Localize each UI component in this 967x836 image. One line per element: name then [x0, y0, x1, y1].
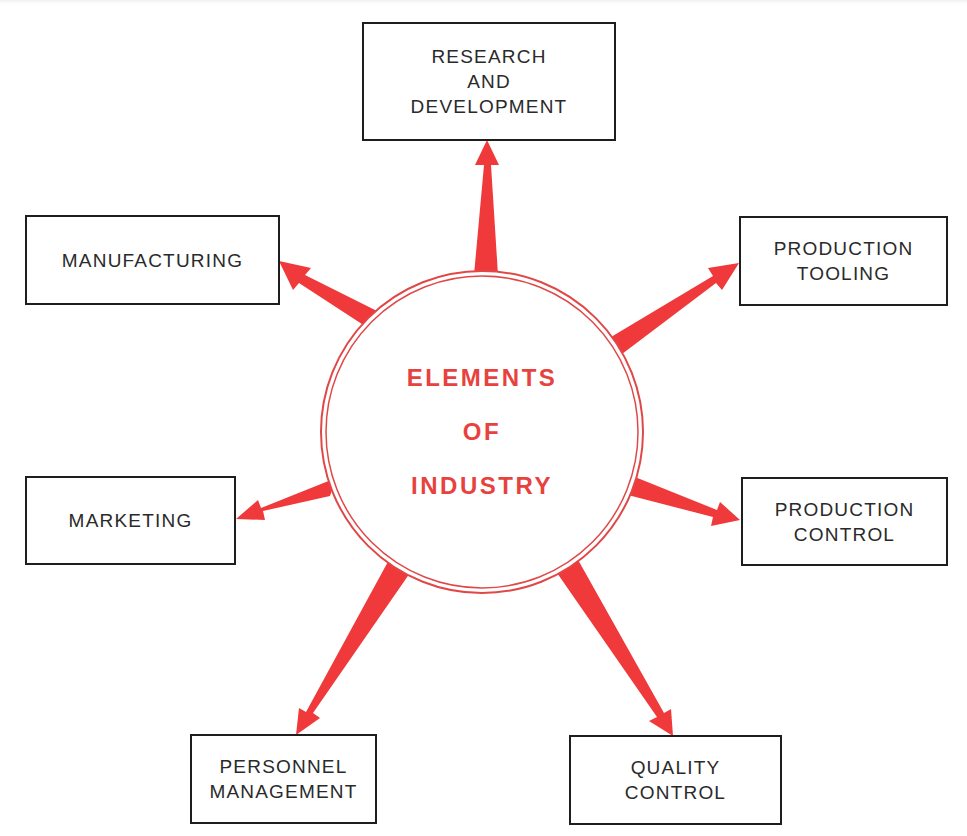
node-label-line: PRODUCTION	[775, 497, 915, 522]
node-label-line: MANUFACTURING	[62, 248, 243, 273]
arrow-to-personnel-management	[296, 558, 412, 735]
arrow-to-quality-control	[555, 558, 673, 736]
node-label-line: DEVELOPMENT	[411, 94, 568, 119]
node-label-line: MANAGEMENT	[209, 779, 357, 804]
node-quality-control: QUALITY CONTROL	[569, 735, 782, 825]
node-label-line: AND	[467, 69, 511, 94]
arrow-to-marketing	[236, 478, 336, 520]
node-label-line: RESEARCH	[431, 44, 546, 69]
node-marketing: MARKETING	[25, 476, 236, 565]
node-manufacturing: MANUFACTURING	[25, 215, 280, 305]
node-label-line: MARKETING	[69, 508, 193, 533]
node-label-line: QUALITY	[631, 755, 721, 780]
node-production-tooling: PRODUCTION TOOLING	[739, 216, 948, 306]
arrow-to-production-control	[624, 475, 740, 526]
node-label-line: CONTROL	[794, 522, 895, 547]
hub-elements-of-industry: ELEMENTS OF INDUSTRY	[322, 272, 642, 592]
node-personnel-management: PERSONNEL MANAGEMENT	[190, 734, 377, 824]
node-label-line: TOOLING	[797, 261, 891, 286]
node-research-and-development: RESEARCH AND DEVELOPMENT	[362, 22, 616, 141]
hub-label-line-2: OF	[463, 405, 501, 459]
node-label-line: PERSONNEL	[219, 754, 347, 779]
node-production-control: PRODUCTION CONTROL	[741, 477, 948, 566]
hub-label-line-3: INDUSTRY	[411, 459, 553, 513]
node-label-line: CONTROL	[625, 780, 726, 805]
node-label-line: PRODUCTION	[774, 236, 914, 261]
arrow-to-production-tooling	[606, 263, 739, 357]
hub-label-line-1: ELEMENTS	[407, 351, 558, 405]
arrow-to-research-and-development	[474, 140, 499, 275]
arrow-to-manufacturing	[279, 261, 381, 328]
